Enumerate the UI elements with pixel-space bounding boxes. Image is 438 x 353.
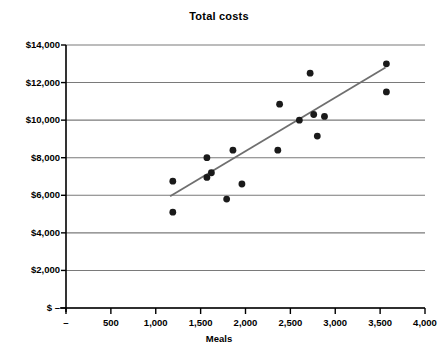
data-point (321, 113, 328, 120)
y-axis-tick-label: $10,000 (4, 115, 60, 125)
y-axis-tick-label: $6,000 (4, 190, 60, 200)
data-point (274, 147, 281, 154)
data-point (310, 111, 317, 118)
data-point (223, 196, 230, 203)
y-axis-tick-label: $8,000 (4, 153, 60, 163)
y-axis-tick-label: $14,000 (4, 40, 60, 50)
data-point (276, 101, 283, 108)
gridlines (66, 45, 425, 308)
data-point (239, 181, 246, 188)
data-point (383, 60, 390, 67)
data-point (208, 169, 215, 176)
trendline (170, 68, 385, 197)
x-axis-tick-label: 4,000 (395, 318, 438, 328)
data-point (383, 89, 390, 96)
y-axis-tick-label: $12,000 (4, 78, 60, 88)
x-axis-title: Meals (0, 333, 438, 344)
data-point (169, 178, 176, 185)
data-point (169, 209, 176, 216)
y-axis-tick-label: $4,000 (4, 228, 60, 238)
data-point (296, 117, 303, 124)
data-points (169, 60, 389, 215)
scatter-plot-canvas (0, 0, 438, 353)
data-point (230, 147, 237, 154)
y-axis-tick-label: $ – (4, 303, 60, 313)
y-axis-tick-label: $2,000 (4, 265, 60, 275)
data-point (204, 154, 211, 161)
chart-container: Total costs $14,000$12,000$10,000$8,000$… (0, 0, 438, 353)
data-point (307, 70, 314, 77)
data-point (314, 133, 321, 140)
x-axis-ticks (66, 308, 425, 314)
